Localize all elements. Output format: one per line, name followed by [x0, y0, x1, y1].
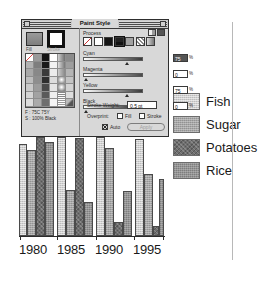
bar-fish-1990	[96, 137, 105, 236]
swatch-cell[interactable]	[66, 62, 74, 70]
bar-rice-1995	[159, 179, 164, 236]
auto-checkbox[interactable]	[102, 124, 108, 130]
swatch-cell[interactable]	[50, 77, 58, 85]
mode-gradient-icon[interactable]	[146, 37, 155, 46]
swatch-cell[interactable]	[34, 92, 42, 100]
bar-rice-1980	[45, 142, 54, 236]
swatch-cell[interactable]	[50, 62, 58, 70]
bar-fish-1995	[135, 139, 144, 236]
x-tick-label-1990: 1990	[95, 242, 123, 257]
swatch-cell[interactable]	[50, 92, 58, 100]
swatch-cell[interactable]	[66, 54, 74, 62]
swatch-cell[interactable]	[50, 69, 58, 77]
bar-sugar-1990	[105, 148, 114, 236]
swatch-cell[interactable]	[66, 69, 74, 77]
stroke-color-chip[interactable]	[47, 30, 65, 48]
swatch-cell[interactable]	[34, 54, 42, 62]
swatch-cell[interactable]	[66, 92, 74, 100]
swatch-cell[interactable]	[26, 99, 34, 107]
swatch-cell[interactable]	[42, 99, 50, 107]
bar-potatoes-1985	[75, 138, 84, 236]
bar-potatoes-1990	[114, 222, 123, 236]
swatch-cell[interactable]	[66, 99, 74, 107]
vertical-divider	[232, 22, 233, 260]
swatch-cell[interactable]	[42, 62, 50, 70]
fill-color-chip[interactable]	[26, 32, 43, 46]
swatch-cell[interactable]	[50, 54, 58, 62]
overprint-fill-label: Fill	[125, 113, 131, 119]
paint-style-dialog[interactable]: Paint Style Fill Stroke	[21, 19, 169, 137]
paint-mode-buttons	[83, 37, 155, 46]
stroke-weight-label: Stroke Weight:	[87, 102, 120, 108]
swatch-cell[interactable]	[66, 77, 74, 85]
mode-black-icon[interactable]	[104, 37, 113, 46]
zoom-icon[interactable]	[160, 21, 166, 27]
split-view-icon[interactable]	[148, 29, 156, 36]
swatch-cell[interactable]	[34, 99, 42, 107]
slider-track-magenta[interactable]	[83, 73, 143, 77]
swatch-cell[interactable]	[42, 84, 50, 92]
swatch-cell[interactable]	[34, 69, 42, 77]
swatch-cell[interactable]	[26, 54, 34, 62]
swatch-cell[interactable]	[26, 62, 34, 70]
overprint-stroke-label: Stroke	[147, 113, 161, 119]
slider-cyan: Cyan 75 %	[83, 50, 167, 61]
legend-label-fish: Fish	[206, 93, 231, 110]
close-icon[interactable]	[24, 21, 30, 27]
mode-pattern-icon[interactable]	[136, 37, 145, 46]
color-info-readout: F : 75C 75Y S : 100% Black	[25, 110, 77, 122]
bar-rice-1985	[84, 202, 93, 236]
dialog-corner-buttons	[148, 29, 166, 36]
mode-gray-icon[interactable]	[125, 37, 134, 46]
overprint-fill-checkbox[interactable]	[117, 113, 123, 119]
mode-white-icon[interactable]	[94, 37, 103, 46]
overprint-stroke-checkbox[interactable]	[139, 113, 145, 119]
swatch-cell[interactable]	[26, 84, 34, 92]
swatch-cell[interactable]	[58, 99, 66, 107]
legend-label-sugar: Sugar	[206, 116, 241, 133]
slider-track-cyan[interactable]	[83, 57, 143, 61]
slider-thumb-yellow[interactable]	[125, 94, 129, 97]
swatch-cell[interactable]	[34, 62, 42, 70]
swatch-cell[interactable]	[42, 77, 50, 85]
mode-process-icon[interactable]	[115, 37, 124, 46]
swatch-cell[interactable]	[42, 69, 50, 77]
swatch-cell[interactable]	[42, 54, 50, 62]
swatch-cell[interactable]	[50, 84, 58, 92]
swatch-cell[interactable]	[66, 84, 74, 92]
apply-button[interactable]: Apply	[127, 123, 165, 131]
slider-value-black[interactable]: 0	[173, 102, 188, 110]
slider-thumb-magenta[interactable]	[84, 78, 88, 81]
slider-thumb-cyan[interactable]	[125, 62, 129, 65]
menu-arrow-icon[interactable]	[157, 29, 165, 36]
slider-value-magenta[interactable]: 0	[173, 70, 188, 78]
slider-track-yellow[interactable]	[83, 89, 143, 93]
swatch-cell[interactable]	[58, 69, 66, 77]
slider-value-yellow[interactable]: 75	[173, 86, 188, 94]
titlebar-stripes-left	[23, 21, 71, 27]
color-picker-pane: Fill Stroke	[22, 28, 80, 136]
mode-none-icon[interactable]	[83, 37, 92, 46]
swatch-cell[interactable]	[26, 69, 34, 77]
auto-label: Auto	[110, 124, 120, 130]
swatch-cell[interactable]	[34, 77, 42, 85]
swatch-cell[interactable]	[50, 99, 58, 107]
swatch-cell[interactable]	[58, 62, 66, 70]
swatch-grid[interactable]	[25, 53, 75, 108]
swatch-cell[interactable]	[26, 92, 34, 100]
swatch-cell[interactable]	[42, 92, 50, 100]
swatch-cell[interactable]	[58, 54, 66, 62]
legend-label-rice: Rice	[206, 162, 232, 179]
slider-unit-cyan: %	[189, 55, 193, 60]
swatch-cell[interactable]	[34, 84, 42, 92]
potatoes-swatch-icon	[173, 139, 200, 156]
swatch-cell[interactable]	[58, 84, 66, 92]
swatch-cell[interactable]	[58, 77, 66, 85]
swatch-cell[interactable]	[58, 92, 66, 100]
stroke-label: Stroke	[47, 47, 60, 52]
overprint-label: Overprint:	[87, 113, 109, 119]
swatch-cell[interactable]	[26, 77, 34, 85]
x-axis-tick	[163, 236, 164, 240]
slider-value-cyan[interactable]: 75	[173, 54, 188, 62]
stroke-weight-input[interactable]: 0.5 pt	[127, 101, 157, 109]
